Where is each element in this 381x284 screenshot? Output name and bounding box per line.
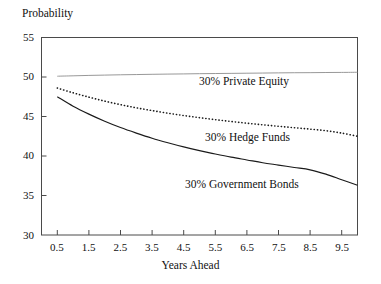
y-tick-label-55: 55 <box>10 31 34 43</box>
y-tick-label-40: 40 <box>10 149 34 161</box>
y-tick-label-45: 45 <box>10 110 34 122</box>
y-tick-label-35: 35 <box>10 189 34 201</box>
y-tick-label-50: 50 <box>10 70 34 82</box>
x-tick-label-2-5: 2.5 <box>104 241 136 253</box>
axis-tick-marks <box>42 77 342 235</box>
x-tick-label-1-5: 1.5 <box>73 241 105 253</box>
y-axis-title: Probability <box>22 6 73 20</box>
series-paths <box>57 72 357 185</box>
y-tick-label-30: 30 <box>10 229 34 241</box>
x-tick-label-0-5: 0.5 <box>41 241 73 253</box>
plot-frame <box>42 38 358 236</box>
x-tick-label-5-5: 5.5 <box>199 241 231 253</box>
series-curve-30-hedge-funds <box>57 88 357 136</box>
x-tick-label-7-5: 7.5 <box>263 241 295 253</box>
series-label-government-bonds: 30% Government Bonds <box>185 178 299 191</box>
series-label-private-equity: 30% Private Equity <box>199 75 289 88</box>
x-axis-title: Years Ahead <box>0 258 381 272</box>
probability-chart-figure: Probability 55 50 45 40 35 30 0.5 1.5 2.… <box>0 0 381 284</box>
x-tick-label-9-5: 9.5 <box>326 241 358 253</box>
x-tick-label-6-5: 6.5 <box>231 241 263 253</box>
x-tick-label-4-5: 4.5 <box>168 241 200 253</box>
x-tick-label-3-5: 3.5 <box>136 241 168 253</box>
series-label-hedge-funds: 30% Hedge Funds <box>205 131 290 144</box>
x-tick-label-8-5: 8.5 <box>294 241 326 253</box>
